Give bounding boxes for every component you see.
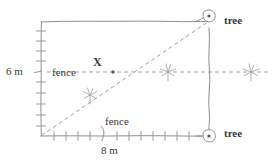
fence-label-left: fence (52, 67, 76, 78)
fence-left-line (41, 22, 42, 136)
tree-label-bottom: tree (224, 128, 242, 139)
point-x-label: X (93, 56, 102, 68)
height-dimension-tick (34, 71, 41, 73)
tree-icon (203, 130, 215, 142)
tree-label-top: tree (224, 15, 242, 26)
width-label: 8 m (101, 145, 118, 156)
tree-icon (203, 10, 215, 22)
height-label: 6 m (6, 66, 23, 77)
diagram-canvas: 6 m fence fence 8 m X tree tree (0, 0, 273, 164)
fence-right-line (209, 28, 210, 130)
point-x-marker (111, 70, 114, 73)
width-dimension-bracket (101, 126, 104, 141)
plant-marker-icon (83, 88, 97, 104)
fence-label-bottom: fence (105, 116, 129, 127)
tree-connector-lines (196, 18, 203, 136)
fence-top-line (41, 21, 209, 22)
